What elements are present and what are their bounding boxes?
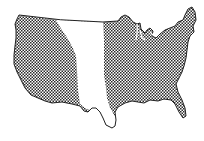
- map-fill-group: [0, 0, 204, 141]
- us-map: [0, 0, 204, 141]
- us-map-svg: [0, 0, 204, 141]
